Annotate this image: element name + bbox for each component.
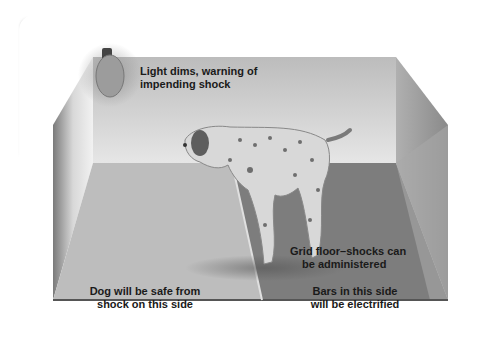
grid-floor-line-2: be administered	[290, 258, 470, 271]
grid-floor-label: Grid floor–shocks can be administered	[290, 245, 470, 271]
grid-floor-line-1: Grid floor–shocks can	[290, 245, 470, 258]
electrified-side-label: Bars in this side will be electrified	[300, 285, 410, 311]
electrified-side-line-1: Bars in this side	[300, 285, 410, 298]
shuttle-box-diagram	[0, 0, 499, 347]
electrified-side-line-2: will be electrified	[300, 298, 410, 311]
light-warning-line-1: Light dims, warning of	[140, 65, 257, 78]
light-bulb-icon	[96, 55, 124, 97]
light-warning-label: Light dims, warning of impending shock	[140, 65, 257, 91]
safe-side-line-2: shock on this side	[80, 298, 210, 311]
light-warning-line-2: impending shock	[140, 78, 257, 91]
dog-ear	[191, 130, 209, 156]
dog-nose	[183, 143, 187, 147]
safe-side-label: Dog will be safe from shock on this side	[80, 285, 210, 311]
safe-side-line-1: Dog will be safe from	[80, 285, 210, 298]
